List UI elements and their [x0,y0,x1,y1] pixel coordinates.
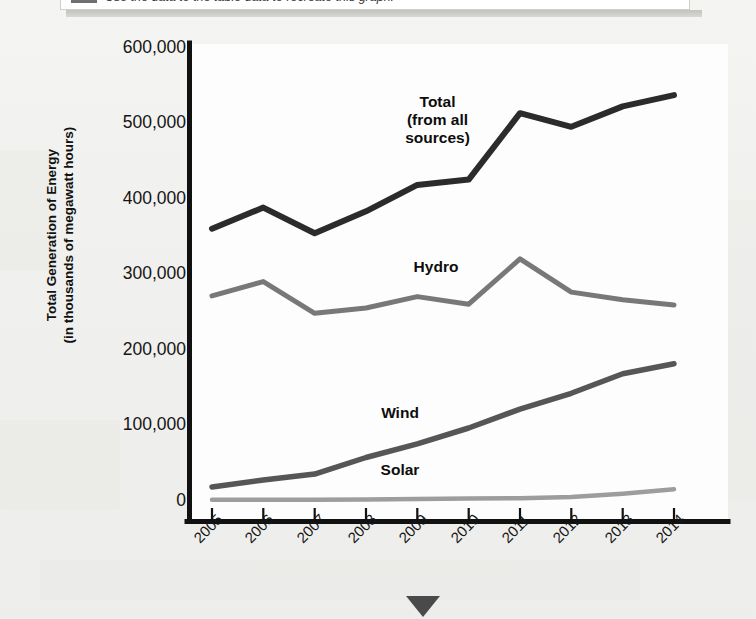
series-layer [212,95,674,500]
series-line-solar [212,489,674,500]
series-label-hydro: Hydro [386,258,486,276]
series-label-solar: Solar [350,461,450,479]
bottom-pointer-icon [406,596,440,617]
series-label-total-line1: Total [375,93,500,111]
series-label-total-line3: sources) [375,129,500,147]
series-label-total: Total (from all sources) [375,93,500,147]
series-label-total-line2: (from all [375,111,500,129]
line-chart: Total Generation of Energy (in thousands… [0,0,756,619]
series-label-wind: Wind [350,404,450,422]
